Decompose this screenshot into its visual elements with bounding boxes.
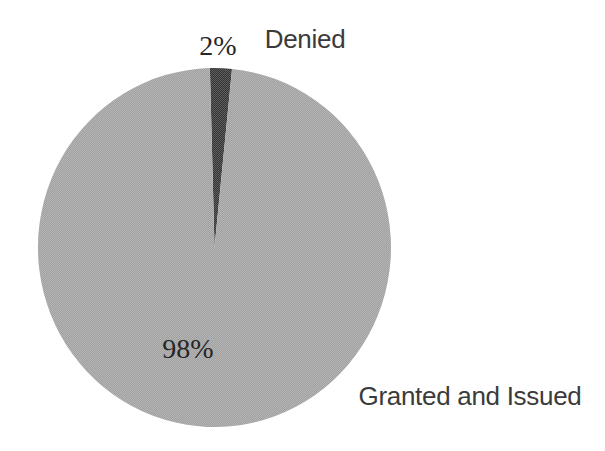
pie-chart: 2% Denied 98% Granted and Issued xyxy=(0,0,605,451)
denied-percent-label: 2% xyxy=(199,32,236,60)
denied-category-label: Denied xyxy=(265,26,346,52)
halftone-texture-overlay xyxy=(38,68,391,427)
granted-category-label: Granted and Issued xyxy=(359,383,582,409)
granted-percent-label: 98% xyxy=(162,335,213,363)
